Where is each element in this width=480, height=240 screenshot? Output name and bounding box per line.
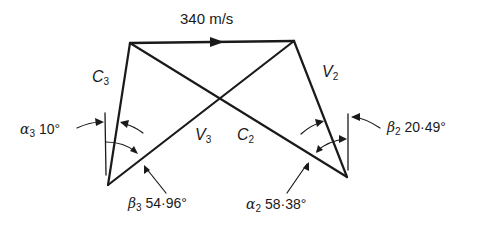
alpha3-value: 10°: [39, 121, 60, 137]
alpha2-leader-arrowhead-icon: [303, 162, 309, 171]
blade-speed-arrowhead-icon: [210, 37, 224, 47]
c2-symbol: C: [237, 126, 249, 143]
alpha2-arc-start-arrowhead-icon: [316, 145, 323, 153]
beta2-arrowhead-icon: [351, 113, 360, 121]
v3-vector: [108, 41, 294, 185]
alpha3-label: α3 10°: [20, 122, 60, 136]
alpha2-value: 58·38°: [265, 196, 306, 212]
c3-label: C3: [92, 69, 109, 85]
beta3-subscript: 3: [136, 202, 142, 213]
alpha2-label: α2 58·38°: [246, 197, 306, 211]
beta3-value: 54·96°: [146, 195, 187, 211]
c3-symbol: C: [92, 68, 104, 85]
v3-symbol: V: [195, 126, 206, 143]
v2-vector: [294, 41, 347, 177]
beta3-leader: [146, 168, 166, 193]
alpha3-arrowhead-icon: [95, 118, 104, 126]
beta2-subscript: 2: [395, 126, 401, 137]
beta3-label: β3 54·96°: [128, 196, 187, 210]
beta2-value: 20·49°: [405, 119, 446, 135]
v2-symbol: V: [322, 63, 333, 80]
alpha3-inner-arrowhead-icon: [120, 120, 129, 128]
v2-label: V2: [322, 64, 338, 80]
c2-label: C2: [237, 127, 254, 143]
alpha2-arc-arrowhead-icon: [339, 135, 347, 143]
beta2-symbol: β: [387, 119, 395, 135]
blade-speed-label: 340 m/s: [180, 11, 233, 26]
beta2-label: β2 20·49°: [387, 120, 446, 134]
left-axial-reference-line: [105, 113, 106, 175]
v3-subscript: 3: [206, 134, 212, 145]
c2-vector: [130, 43, 347, 177]
beta3-symbol: β: [128, 195, 136, 211]
alpha2-subscript: 2: [255, 203, 261, 214]
beta3-arc-arrowhead-icon: [130, 146, 138, 154]
alpha3-subscript: 3: [29, 128, 35, 139]
c3-subscript: 3: [104, 76, 110, 87]
c2-subscript: 2: [249, 134, 255, 145]
v3-label: V3: [195, 127, 211, 143]
v2-subscript: 2: [333, 71, 339, 82]
beta2-inner-arrowhead-icon: [315, 119, 324, 127]
c3-vector: [108, 43, 130, 185]
